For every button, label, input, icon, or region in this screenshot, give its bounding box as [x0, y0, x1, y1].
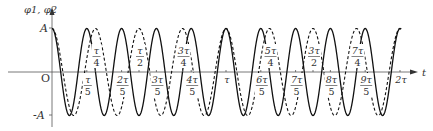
svg-text:4: 4: [93, 57, 99, 68]
svg-text:5: 5: [189, 86, 195, 97]
x-tick-above-5: 7τ4: [351, 44, 365, 68]
x-tick-below-6: 7τ5: [290, 73, 304, 97]
svg-text:7τ: 7τ: [291, 74, 303, 85]
x-tick-above-1: τ2: [135, 44, 145, 68]
x-axis-label: t: [422, 67, 427, 78]
svg-text:τ: τ: [94, 45, 100, 56]
svg-text:5: 5: [294, 86, 300, 97]
y-axis-label: φ1, φ2: [24, 4, 57, 15]
svg-text:4: 4: [267, 57, 273, 68]
x-tick-below-8: 9τ5: [359, 73, 373, 97]
svg-text:3τ: 3τ: [178, 45, 190, 56]
x-axis-arrow-icon: [410, 70, 418, 75]
svg-text:5: 5: [120, 86, 126, 97]
y-tick-A: A: [39, 22, 48, 35]
svg-text:2: 2: [137, 57, 143, 68]
x-tick-below-5: 6τ5: [255, 73, 269, 97]
svg-text:4: 4: [354, 57, 360, 68]
x-tick-below-4: τ: [222, 73, 232, 85]
x-tick-below-1: 2τ5: [116, 73, 130, 97]
svg-text:5: 5: [154, 86, 160, 97]
x-tick-above-3: 5τ4: [264, 44, 278, 68]
svg-text:5: 5: [85, 86, 91, 97]
svg-text:8τ: 8τ: [326, 74, 338, 85]
svg-text:3τ: 3τ: [152, 74, 164, 85]
x-tick-above-2: 3τ4: [177, 44, 191, 68]
phase-chart: τ52τ53τ54τ5τ6τ57τ58τ59τ52ττ4τ23τ45τ43τ27…: [0, 0, 433, 131]
x-tick-above-0: τ4: [92, 44, 102, 68]
svg-text:9τ: 9τ: [361, 74, 373, 85]
svg-text:5τ: 5τ: [265, 45, 277, 56]
svg-text:6τ: 6τ: [256, 74, 268, 85]
svg-text:2τ: 2τ: [394, 74, 407, 85]
svg-text:5: 5: [328, 86, 334, 97]
x-tick-above-4: 3τ2: [307, 44, 321, 68]
svg-text:5: 5: [363, 86, 369, 97]
x-tick-below-7: 8τ5: [324, 73, 338, 97]
svg-text:τ: τ: [224, 74, 230, 85]
svg-text:4: 4: [180, 57, 186, 68]
origin-label: O: [41, 72, 50, 85]
svg-text:τ: τ: [137, 45, 143, 56]
svg-text:7τ: 7τ: [352, 45, 364, 56]
svg-text:2: 2: [311, 57, 317, 68]
svg-text:3τ: 3τ: [308, 45, 320, 56]
x-tick-below-0: τ5: [83, 73, 93, 97]
x-tick-below-9: 2τ: [394, 73, 408, 85]
svg-text:4τ: 4τ: [186, 74, 199, 85]
x-tick-below-3: 4τ5: [185, 73, 199, 97]
x-tick-below-2: 3τ5: [150, 73, 164, 97]
svg-text:τ: τ: [85, 74, 91, 85]
svg-text:5: 5: [259, 86, 265, 97]
svg-text:2τ: 2τ: [116, 74, 129, 85]
y-tick-neg-A: -A: [33, 109, 45, 122]
